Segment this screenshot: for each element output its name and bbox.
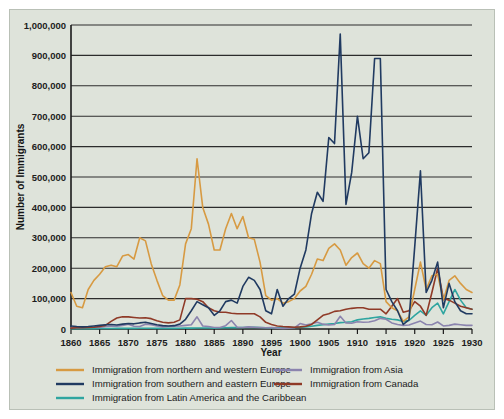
y-tick-label: 800,000 — [32, 80, 66, 91]
y-tick-label: 900,000 — [32, 50, 66, 61]
y-tick-label: 300,000 — [32, 232, 66, 243]
y-tick-label: 100,000 — [32, 293, 66, 304]
figure-container: 0100,000200,000300,000400,000500,000600,… — [0, 0, 504, 419]
x-tick-label: 1930 — [461, 337, 482, 348]
x-tick-label: 1885 — [204, 337, 226, 348]
legend-label: Immigration from Canada — [310, 378, 419, 389]
y-tick-label: 200,000 — [32, 263, 66, 274]
x-tick-label: 1860 — [60, 337, 81, 348]
series-line — [71, 159, 472, 322]
chart-panel: 0100,000200,000300,000400,000500,000600,… — [9, 9, 495, 410]
x-tick-label: 1870 — [118, 337, 139, 348]
x-tick-label: 1890 — [232, 337, 253, 348]
x-tick-label: 1905 — [318, 337, 340, 348]
legend-label: Immigration from northern and western Eu… — [92, 364, 291, 375]
y-tick-label: 1,000,000 — [24, 20, 66, 31]
x-tick-label: 1925 — [433, 337, 455, 348]
y-tick-label: 400,000 — [32, 202, 66, 213]
y-tick-label: 500,000 — [32, 172, 66, 183]
series-line — [71, 289, 472, 328]
y-axis-title: Number of Immigrants — [15, 123, 26, 230]
series-line — [71, 34, 472, 327]
chart-legend: Immigration from northern and western Eu… — [56, 364, 419, 403]
immigration-line-chart: 0100,000200,000300,000400,000500,000600,… — [10, 10, 494, 409]
legend-label: Immigration from southern and eastern Eu… — [92, 378, 291, 389]
x-tick-label: 1915 — [376, 337, 398, 348]
y-tick-label: 0 — [61, 324, 66, 335]
y-tick-label: 700,000 — [32, 111, 66, 122]
x-tick-label: 1920 — [404, 337, 425, 348]
x-tick-label: 1910 — [347, 337, 368, 348]
y-tick-label: 600,000 — [32, 141, 66, 152]
data-series — [71, 34, 472, 329]
legend-label: Immigration from Latin America and the C… — [92, 392, 306, 403]
x-tick-label: 1900 — [290, 337, 311, 348]
x-tick-label: 1865 — [89, 337, 111, 348]
x-tick-label: 1875 — [146, 337, 168, 348]
y-tick-labels: 0100,000200,000300,000400,000500,000600,… — [24, 20, 66, 335]
x-tick-label: 1880 — [175, 337, 196, 348]
legend-label: Immigration from Asia — [310, 364, 403, 375]
x-axis-title: Year — [260, 347, 281, 358]
